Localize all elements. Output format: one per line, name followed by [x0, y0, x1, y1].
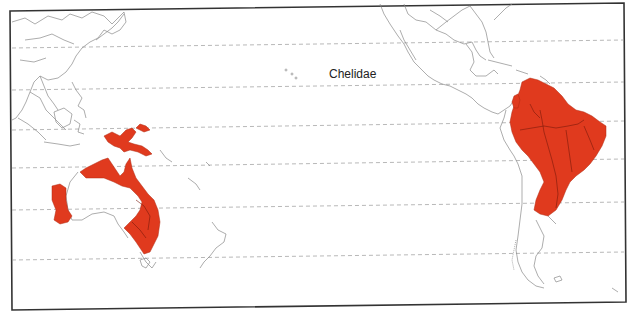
- map-canvas: [0, 0, 630, 312]
- map-title: Chelidae: [329, 67, 376, 81]
- distribution-map: Chelidae: [0, 0, 630, 312]
